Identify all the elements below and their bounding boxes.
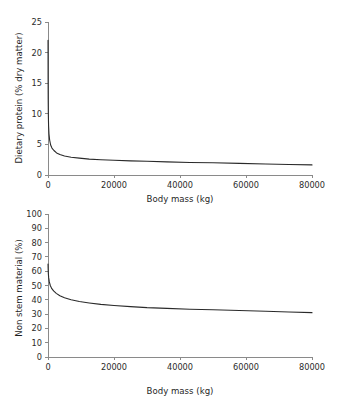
x-tick-label: 60000 (233, 362, 259, 372)
y-tick-label: 70 (32, 252, 42, 262)
y-tick-label: 20 (32, 48, 42, 58)
y-tick-label: 90 (32, 223, 42, 233)
y-tick-label: 20 (32, 323, 42, 333)
x-tick-label: 80000 (299, 180, 325, 190)
x-tick-label: 20000 (101, 180, 127, 190)
bottom-chart-curve-group (48, 264, 312, 313)
x-tick-label: 40000 (167, 180, 193, 190)
axis-lines (48, 214, 312, 357)
y-tick-label: 0 (37, 170, 42, 180)
y-tick-label: 10 (32, 109, 42, 119)
chart-panel-dietary-protein: 0510152025020000400006000080000 Body mas… (0, 0, 341, 206)
top-chart-axes (45, 22, 312, 178)
dietary-protein-chart-svg: 0510152025020000400006000080000 Body mas… (0, 0, 341, 206)
y-tick-label: 100 (26, 209, 42, 219)
x-tick-label: 20000 (101, 362, 127, 372)
y-tick-label: 5 (37, 139, 42, 149)
data-curve-line (48, 40, 312, 165)
y-tick-label: 10 (32, 338, 42, 348)
data-curve-line (48, 264, 312, 313)
y-tick-label: 50 (32, 281, 42, 291)
chart-panel-non-stem-material: 0102030405060708090100020000400006000080… (0, 200, 341, 412)
bottom-chart-x-axis-title: Body mass (kg) (147, 386, 214, 396)
bottom-chart-axes (45, 214, 312, 360)
y-tick-label: 40 (32, 295, 42, 305)
axis-lines (48, 22, 312, 175)
y-tick-label: 0 (37, 352, 42, 362)
x-tick-label: 0 (45, 180, 50, 190)
top-chart-curve-group (48, 40, 312, 165)
bottom-chart-tick-labels: 0102030405060708090100020000400006000080… (26, 209, 325, 372)
non-stem-material-chart-svg: 0102030405060708090100020000400006000080… (0, 200, 341, 412)
x-tick-label: 60000 (233, 180, 259, 190)
top-chart-y-axis-title: Dietary protein (% dry matter) (14, 32, 24, 163)
x-tick-label: 80000 (299, 362, 325, 372)
y-tick-label: 60 (32, 266, 42, 276)
two-panel-line-chart-figure: 0510152025020000400006000080000 Body mas… (0, 0, 341, 412)
y-tick-label: 80 (32, 238, 42, 248)
y-tick-label: 30 (32, 309, 42, 319)
x-tick-label: 0 (45, 362, 50, 372)
y-tick-label: 15 (32, 78, 42, 88)
bottom-chart-y-axis-title: Non stem material (%) (14, 239, 24, 337)
x-tick-label: 40000 (167, 362, 193, 372)
y-tick-label: 25 (32, 17, 42, 27)
